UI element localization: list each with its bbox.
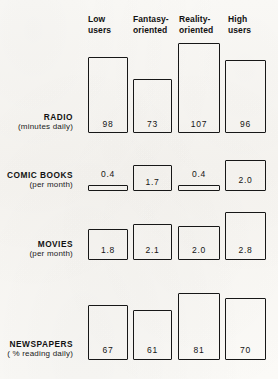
- media-use-figure: Low users Fantasy- oriented Reality- ori…: [0, 0, 278, 379]
- column-header-line-1: Low: [88, 14, 111, 25]
- column-header-low-users: Low users: [88, 14, 111, 36]
- bar-value-comic-books-low-users: 0.4: [88, 170, 128, 179]
- bar-value-movies-fantasy-oriented: 2.1: [133, 246, 172, 255]
- bar-comic-books-reality-oriented: [178, 185, 220, 191]
- row-label-title: RADIO: [0, 112, 73, 122]
- column-header-line-2: oriented: [133, 25, 169, 36]
- row-label-unit: (per month): [0, 180, 73, 190]
- bar-comic-books-low-users: [88, 185, 128, 191]
- bar-value-comic-books-high-users: 2.0: [225, 176, 266, 185]
- bar-value-radio-high-users: 96: [225, 120, 266, 129]
- column-header-high-users: High users: [228, 14, 251, 36]
- column-header-line-2: oriented: [179, 25, 213, 36]
- row-label-title: COMIC BOOKS: [0, 170, 73, 180]
- bar-value-comic-books-reality-oriented: 0.4: [178, 170, 220, 179]
- row-label-unit: ( % reading daily): [0, 349, 73, 359]
- column-header-line-1: Fantasy-: [133, 14, 169, 25]
- column-header-reality-oriented: Reality- oriented: [179, 14, 213, 36]
- bar-value-radio-low-users: 98: [88, 120, 128, 129]
- row-label-radio: RADIO (minutes daily): [0, 112, 73, 132]
- bar-value-newspapers-low-users: 67: [88, 346, 128, 355]
- bar-value-movies-low-users: 1.8: [88, 246, 128, 255]
- column-header-line-2: users: [88, 25, 111, 36]
- row-label-unit: (minutes daily): [0, 122, 73, 132]
- bar-value-newspapers-reality-oriented: 81: [178, 346, 220, 355]
- column-header-line-1: Reality-: [179, 14, 213, 25]
- row-label-movies: MOVIES (per month): [0, 239, 73, 259]
- bar-value-radio-fantasy-oriented: 73: [133, 120, 172, 129]
- row-label-title: NEWSPAPERS: [0, 339, 73, 349]
- column-header-line-2: users: [228, 25, 251, 36]
- row-label-title: MOVIES: [0, 239, 73, 249]
- bar-value-movies-reality-oriented: 2.0: [178, 246, 220, 255]
- bar-value-radio-reality-oriented: 107: [178, 120, 220, 129]
- row-label-newspapers: NEWSPAPERS ( % reading daily): [0, 339, 73, 359]
- bar-value-newspapers-fantasy-oriented: 61: [133, 346, 172, 355]
- column-header-line-1: High: [228, 14, 251, 25]
- bar-value-movies-high-users: 2.8: [225, 246, 266, 255]
- row-label-unit: (per month): [0, 249, 73, 259]
- bar-value-newspapers-high-users: 70: [225, 346, 266, 355]
- row-label-comic-books: COMIC BOOKS (per month): [0, 170, 73, 190]
- column-header-fantasy-oriented: Fantasy- oriented: [133, 14, 169, 36]
- bar-value-comic-books-fantasy-oriented: 1.7: [133, 178, 172, 187]
